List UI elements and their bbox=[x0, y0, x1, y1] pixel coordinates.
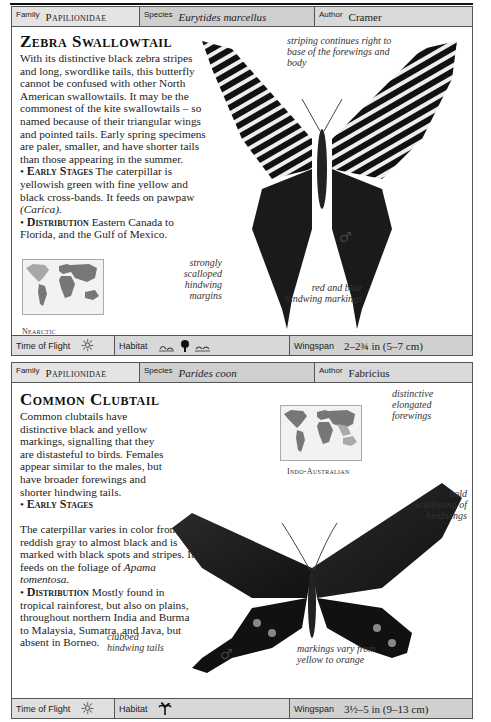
annotation-markings-vary: markings vary from yellow to orange bbox=[297, 643, 377, 665]
wetland-icon bbox=[159, 346, 174, 351]
family-cell: Family Papilionidae bbox=[12, 7, 140, 26]
habitat-label: Habitat bbox=[119, 704, 148, 714]
world-map-icon bbox=[23, 260, 103, 314]
tree-icon bbox=[181, 340, 189, 352]
author-cell: Author Cramer bbox=[315, 7, 472, 26]
male-symbol-icon: ♂ bbox=[220, 646, 233, 662]
species-cell: Species Parides coon bbox=[140, 363, 315, 382]
wingspan-cell: Wingspan 3½–5 in (9–13 cm) bbox=[290, 699, 472, 718]
family-label: Family bbox=[16, 10, 40, 19]
family-value: Papilionidae bbox=[46, 367, 107, 379]
range-map bbox=[280, 405, 362, 461]
card-footer: Time of Flight ☼ Habitat Wingspan 2–2¾ i… bbox=[12, 335, 472, 355]
species-card-zebra-swallowtail: Family Papilionidae Species Eurytides ma… bbox=[11, 6, 473, 356]
sun-icon: ☼ bbox=[80, 699, 94, 718]
time-of-flight-label: Time of Flight bbox=[16, 341, 70, 351]
wingspan-label: Wingspan bbox=[294, 341, 334, 351]
author-label: Author bbox=[319, 10, 343, 19]
world-map-icon bbox=[281, 406, 361, 460]
male-symbol-icon: ♂ bbox=[339, 229, 352, 245]
host-plant: (Carica). bbox=[20, 203, 62, 215]
species-cell: Species Eurytides marcellus bbox=[140, 7, 315, 26]
species-value: Parides coon bbox=[178, 367, 236, 379]
author-label: Author bbox=[319, 366, 343, 375]
annotation-clubbed-tails: clubbed hindwing tails bbox=[107, 631, 177, 653]
distribution-heading: Distribution bbox=[27, 215, 89, 229]
habitat-cell: Habitat bbox=[115, 699, 290, 718]
species-title: Common Clubtail bbox=[20, 390, 159, 410]
range-map bbox=[22, 259, 104, 315]
card-header: Family Papilionidae Species Eurytides ma… bbox=[12, 7, 472, 27]
family-label: Family bbox=[16, 366, 40, 375]
family-cell: Family Papilionidae bbox=[12, 363, 140, 382]
wingspan-cell: Wingspan 2–2¾ in (5–7 cm) bbox=[290, 336, 472, 355]
habitat-label: Habitat bbox=[119, 341, 148, 351]
species-value: Eurytides marcellus bbox=[178, 11, 266, 23]
card-header: Family Papilionidae Species Parides coon… bbox=[12, 363, 472, 383]
time-of-flight-cell: Time of Flight ☼ bbox=[12, 336, 115, 355]
time-of-flight-label: Time of Flight bbox=[16, 704, 70, 714]
sun-icon: ☼ bbox=[80, 336, 94, 355]
early-stages-heading: Early Stages bbox=[27, 164, 93, 178]
wingspan-value: 2–2¾ in (5–7 cm) bbox=[344, 340, 423, 352]
author-value: Cramer bbox=[349, 11, 382, 23]
annotation-bold-scalloping: bold scalloping of hindwings bbox=[407, 488, 467, 521]
annotation-elongated-forewings: distinctive elongated forewings bbox=[392, 388, 462, 421]
wingspan-label: Wingspan bbox=[294, 704, 334, 714]
early-stages-heading: Early Stages bbox=[27, 497, 93, 511]
species-label: Species bbox=[144, 10, 172, 19]
habitat-icons bbox=[158, 340, 228, 352]
annotation-red-blue-markings: red and blue hindwing markings bbox=[277, 282, 362, 304]
intro-text: Common clubtails have distinctive black … bbox=[20, 410, 163, 498]
palm-tree-icon bbox=[158, 702, 172, 716]
author-value: Fabricius bbox=[349, 367, 390, 379]
time-of-flight-cell: Time of Flight ☼ bbox=[12, 699, 115, 718]
family-value: Papilionidae bbox=[46, 11, 107, 23]
top-rule bbox=[10, 3, 473, 5]
habitat-cell: Habitat bbox=[115, 336, 290, 355]
wingspan-value: 3½–5 in (9–13 cm) bbox=[344, 703, 428, 715]
author-cell: Author Fabricius bbox=[315, 363, 472, 382]
wetland-icon bbox=[195, 347, 210, 351]
annotation-striping: striping continues right to base of the … bbox=[287, 35, 402, 68]
species-title: Zebra Swallowtail bbox=[20, 32, 172, 52]
annotation-scalloped-margins: strongly scalloped hindwing margins bbox=[162, 257, 222, 301]
species-card-common-clubtail: Family Papilionidae Species Parides coon… bbox=[11, 362, 473, 719]
distribution-heading: Distribution bbox=[27, 585, 89, 599]
species-label: Species bbox=[144, 366, 172, 375]
species-description-top: Common clubtails have distinctive black … bbox=[20, 410, 170, 511]
card-footer: Time of Flight ☼ Habitat Wingspan 3½–5 i… bbox=[12, 698, 472, 718]
